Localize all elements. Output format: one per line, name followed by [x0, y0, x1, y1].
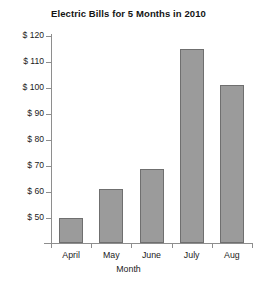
y-axis-tick-mark — [46, 166, 51, 167]
x-axis-tick-mark — [212, 243, 213, 248]
bar-may — [99, 189, 123, 243]
y-axis-tick-mark — [46, 192, 51, 193]
y-axis-tick-mark — [46, 36, 51, 37]
x-axis-tick-mark — [252, 243, 253, 248]
x-axis-tick-mark — [131, 243, 132, 248]
bar-chart: Electric Bills for 5 Months in 2010 $ 50… — [0, 0, 257, 289]
y-axis-tick-label: $ 110 — [2, 57, 44, 66]
y-axis-line — [51, 34, 52, 244]
x-axis-tick-label: July — [172, 250, 212, 260]
y-axis-tick-label: $ 60 — [2, 187, 44, 196]
x-axis-tick-mark — [51, 243, 52, 248]
x-axis-tick-label: June — [131, 250, 171, 260]
y-axis-tick-label: $ 50 — [2, 213, 44, 222]
bar-aug — [220, 85, 244, 243]
y-axis-tick-mark — [46, 218, 51, 219]
x-axis-tick-label: April — [51, 250, 91, 260]
bar-june — [140, 169, 164, 243]
bar-july — [180, 49, 204, 243]
chart-title: Electric Bills for 5 Months in 2010 — [0, 8, 257, 20]
y-axis-tick-label: $ 70 — [2, 161, 44, 170]
x-axis-title: Month — [0, 264, 257, 274]
y-axis-tick-label: $ 80 — [2, 135, 44, 144]
y-axis-tick-mark — [46, 62, 51, 63]
x-axis-tick-label: May — [91, 250, 131, 260]
x-axis-tick-mark — [172, 243, 173, 248]
bar-april — [59, 218, 83, 243]
y-axis-tick-label: $ 100 — [2, 83, 44, 92]
x-axis-tick-mark — [91, 243, 92, 248]
y-axis-tick-mark — [46, 140, 51, 141]
x-axis-line — [44, 243, 253, 244]
y-axis-tick-mark — [46, 88, 51, 89]
y-axis-tick-label: $ 120 — [2, 31, 44, 40]
y-axis-tick-label: $ 90 — [2, 109, 44, 118]
x-axis-tick-label: Aug — [212, 250, 252, 260]
y-axis-tick-mark — [46, 114, 51, 115]
